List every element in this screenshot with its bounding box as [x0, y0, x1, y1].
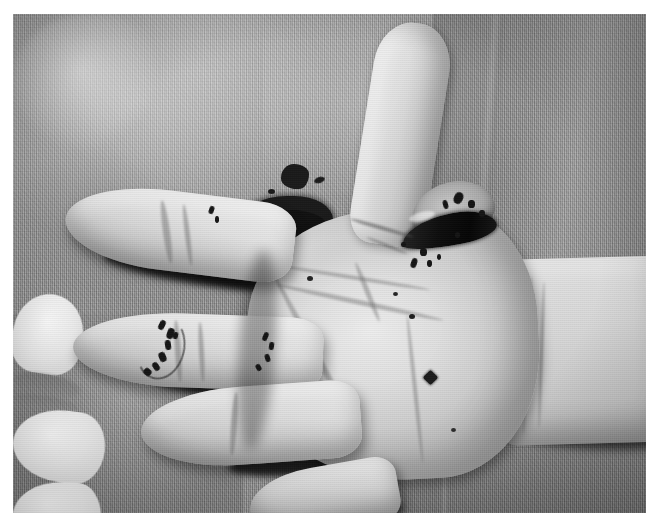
- palm-skin-fleck: [451, 428, 456, 432]
- palm-skin-fleck: [393, 292, 398, 296]
- thenar-eminence: [13, 14, 163, 154]
- drape-blood-fleck: [268, 189, 275, 194]
- index-finger-suture: [215, 216, 219, 223]
- clinical-hand-photograph: [13, 14, 646, 513]
- wound-eschar-fleck: [479, 210, 485, 217]
- wound-eschar-fleck: [455, 232, 460, 238]
- palm-skin-fleck: [409, 314, 415, 319]
- palm-skin-fleck: [307, 276, 313, 281]
- photo-frame: Grayscale clinical photograph of an open…: [0, 0, 657, 523]
- drape-blood-stain-small: [281, 164, 309, 189]
- photo-alt-text: Grayscale clinical photograph of an open…: [0, 0, 1, 1]
- wound-eschar-fleck: [437, 254, 441, 260]
- wound-eschar-fleck: [468, 200, 475, 208]
- wound-eschar-fleck: [420, 248, 427, 256]
- wound-eschar-fleck: [401, 242, 406, 247]
- wound-eschar-fleck: [427, 260, 432, 267]
